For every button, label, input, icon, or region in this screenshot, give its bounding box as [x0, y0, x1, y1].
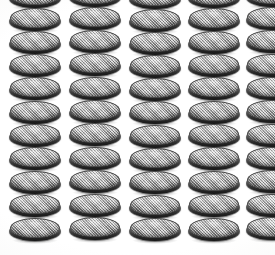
battery-top-face — [10, 218, 60, 238]
battery-top-face — [189, 31, 239, 51]
battery-top-face — [70, 30, 120, 50]
battery-face-highlight — [78, 57, 108, 64]
battery-face-highlight — [255, 11, 275, 18]
battery-top-face — [130, 195, 180, 215]
coin-cell-battery — [245, 216, 275, 242]
battery-top-face — [189, 147, 239, 167]
battery-face-highlight — [197, 151, 227, 158]
battery-top-face — [130, 32, 180, 52]
battery-face-highlight — [197, 198, 227, 205]
coin-cell-battery — [8, 76, 62, 102]
battery-top-face — [10, 101, 60, 121]
battery-top-face — [130, 148, 180, 168]
battery-top-face — [10, 124, 60, 144]
battery-top-face — [189, 218, 239, 238]
battery-face-highlight — [18, 151, 48, 158]
battery-face-highlight — [255, 174, 275, 181]
battery-face-highlight — [197, 105, 227, 112]
battery-top-face — [10, 8, 60, 28]
battery-top-face — [130, 171, 180, 191]
coin-cell-battery — [187, 217, 241, 243]
coin-cell-battery — [68, 122, 122, 148]
coin-cell-battery — [8, 146, 62, 172]
battery-face-highlight — [78, 81, 108, 88]
coin-cell-battery — [187, 193, 241, 219]
battery-face-highlight — [78, 174, 108, 181]
battery-top-face — [189, 8, 239, 28]
battery-face-highlight — [138, 222, 168, 229]
battery-face-highlight — [197, 12, 227, 19]
battery-face-highlight — [138, 199, 168, 206]
coin-cell-battery — [245, 169, 275, 195]
battery-top-face — [10, 77, 60, 97]
battery-face-highlight — [18, 222, 48, 229]
battery-face-highlight — [18, 128, 48, 135]
battery-face-highlight — [18, 105, 48, 112]
battery-top-face — [10, 31, 60, 51]
battery-top-face — [130, 101, 180, 121]
coin-cell-battery — [187, 146, 241, 172]
battery-face-highlight — [138, 82, 168, 89]
coin-cell-battery — [128, 217, 182, 243]
coin-cell-battery — [8, 193, 62, 219]
coin-cell-battery — [68, 52, 122, 78]
battery-face-highlight — [18, 58, 48, 65]
battery-face-highlight — [138, 13, 168, 20]
battery-face-highlight — [138, 105, 168, 112]
battery-face-highlight — [197, 35, 227, 42]
battery-face-highlight — [138, 175, 168, 182]
battery-top-face — [10, 171, 60, 191]
battery-face-highlight — [18, 12, 48, 19]
battery-top-face — [10, 194, 60, 214]
battery-face-highlight — [197, 175, 227, 182]
battery-face-highlight — [18, 175, 48, 182]
battery-face-highlight — [255, 221, 275, 228]
coin-cell-battery — [245, 99, 275, 125]
battery-top-face — [70, 217, 120, 237]
battery-top-face — [189, 194, 239, 214]
battery-face-highlight — [78, 151, 108, 158]
battery-top-face — [189, 124, 239, 144]
battery-top-face — [189, 101, 239, 121]
battery-top-face — [70, 194, 120, 214]
battery-face-highlight — [255, 151, 275, 158]
coin-cell-battery — [128, 170, 182, 196]
battery-top-face — [10, 54, 60, 74]
battery-face-highlight — [138, 59, 168, 66]
coin-cell-battery — [187, 76, 241, 102]
battery-face-highlight — [255, 81, 275, 88]
battery-array-scene — [0, 0, 275, 255]
battery-face-highlight — [78, 198, 108, 205]
battery-top-face — [70, 100, 120, 120]
battery-top-face — [70, 147, 120, 167]
battery-face-highlight — [197, 128, 227, 135]
battery-top-face — [130, 218, 180, 238]
battery-face-highlight — [255, 128, 275, 135]
battery-top-face — [130, 78, 180, 98]
battery-face-highlight — [78, 104, 108, 111]
battery-face-highlight — [197, 81, 227, 88]
battery-top-face — [70, 7, 120, 27]
battery-face-highlight — [138, 36, 168, 43]
battery-face-highlight — [138, 129, 168, 136]
coin-cell-battery — [245, 29, 275, 55]
battery-top-face — [10, 147, 60, 167]
coin-cell-battery — [68, 216, 122, 242]
battery-face-highlight — [78, 34, 108, 41]
battery-top-face — [70, 77, 120, 97]
battery-face-highlight — [197, 222, 227, 229]
battery-top-face — [130, 9, 180, 29]
battery-face-highlight — [18, 35, 48, 42]
battery-top-face — [130, 125, 180, 145]
battery-face-highlight — [255, 58, 275, 65]
battery-top-face — [70, 170, 120, 190]
battery-face-highlight — [18, 198, 48, 205]
battery-top-face — [189, 54, 239, 74]
battery-face-highlight — [255, 34, 275, 41]
battery-top-face — [189, 77, 239, 97]
battery-face-highlight — [78, 221, 108, 228]
battery-top-face — [130, 55, 180, 75]
battery-top-face — [70, 123, 120, 143]
battery-face-highlight — [255, 198, 275, 205]
battery-face-highlight — [78, 127, 108, 134]
